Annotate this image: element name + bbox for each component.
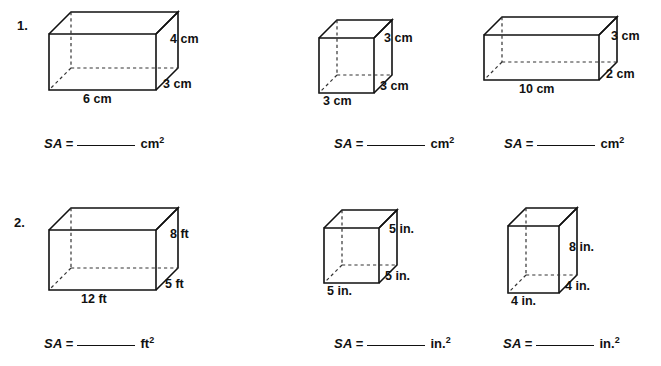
figure-2-3: 4 in. 8 in. 4 in. [495, 183, 661, 313]
equals-sign: = [523, 136, 534, 151]
width-label: 12 ft [81, 293, 107, 306]
width-label: 3 cm [323, 95, 352, 108]
depth-label: 3 cm [380, 80, 409, 93]
rectangular-prism-10x2x3-cm-drawing [478, 0, 661, 130]
unit-label: in.2 [599, 336, 619, 351]
width-label: 10 cm [519, 83, 554, 96]
answer-blank[interactable] [367, 335, 425, 346]
sa-answer-2-3: SA=in.2 [503, 335, 620, 350]
height-label: 8 ft [170, 228, 189, 241]
depth-label: 4 in. [565, 280, 590, 293]
sa-symbol: SA [44, 136, 63, 151]
depth-label: 3 cm [163, 78, 192, 91]
equals-sign: = [522, 336, 533, 351]
figure-1-1: 6 cm 4 cm 3 cm [40, 0, 270, 130]
answer-blank[interactable] [77, 335, 135, 346]
unit-label: cm2 [430, 136, 454, 151]
width-label: 5 in. [327, 285, 352, 298]
sa-symbol: SA [334, 136, 353, 151]
depth-label: 2 cm [606, 68, 635, 81]
rectangular-prism-12x5x8-ft-drawing [40, 183, 270, 323]
sa-symbol: SA [44, 336, 63, 351]
figure-1-3: 10 cm 3 cm 2 cm [478, 0, 661, 130]
sa-symbol: SA [334, 336, 353, 351]
figure-2-1: 12 ft 8 ft 5 ft [40, 183, 270, 313]
answer-blank[interactable] [537, 135, 595, 146]
height-label: 8 in. [569, 241, 594, 254]
unit-label: ft2 [140, 336, 154, 351]
answer-blank[interactable] [536, 335, 594, 346]
equals-sign: = [353, 136, 364, 151]
cube-3x3x3-cm-drawing [310, 0, 480, 130]
height-label: 3 cm [384, 32, 413, 45]
answer-blank[interactable] [77, 135, 135, 146]
sa-answer-1-1: SA=cm2 [44, 135, 164, 150]
depth-label: 5 ft [165, 278, 184, 291]
answer-blank[interactable] [367, 135, 425, 146]
sa-answer-1-3: SA=cm2 [504, 135, 624, 150]
width-label: 6 cm [83, 93, 112, 106]
cube-5x5x5-in-drawing [315, 183, 485, 323]
equals-sign: = [353, 336, 364, 351]
problem-number-2: 2. [14, 215, 25, 230]
equals-sign: = [63, 336, 74, 351]
height-label: 3 cm [611, 30, 640, 43]
height-label: 4 cm [170, 33, 199, 46]
depth-label: 5 in. [385, 270, 410, 283]
rectangular-prism-6x3x4-cm-drawing [40, 0, 270, 130]
problem-1: 1. 6 cm [0, 0, 661, 183]
unit-label: cm2 [140, 136, 164, 151]
height-label: 5 in. [389, 223, 414, 236]
problem-number-1: 1. [17, 18, 28, 33]
sa-answer-1-2: SA=cm2 [334, 135, 454, 150]
equals-sign: = [63, 136, 74, 151]
width-label: 4 in. [511, 295, 536, 308]
problem-2: 2. 12 ft 8 ft 5 ft SA=ft2 [0, 183, 661, 366]
unit-label: in.2 [430, 336, 450, 351]
unit-label: cm2 [600, 136, 624, 151]
figure-2-2: 5 in. 5 in. 5 in. [315, 183, 485, 313]
sa-symbol: SA [504, 136, 523, 151]
figure-1-2: 3 cm 3 cm 3 cm [310, 0, 480, 130]
sa-answer-2-2: SA=in.2 [334, 335, 451, 350]
sa-answer-2-1: SA=ft2 [44, 335, 154, 350]
worksheet-page: 1. 6 cm [0, 0, 661, 366]
sa-symbol: SA [503, 336, 522, 351]
